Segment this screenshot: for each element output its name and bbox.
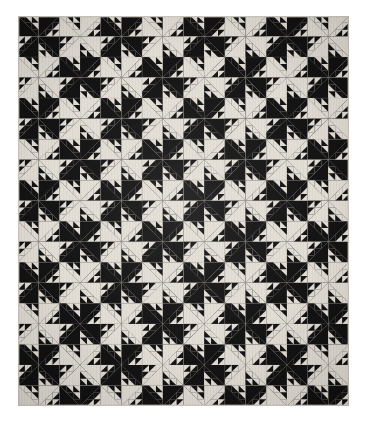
quilt-unit xyxy=(308,119,329,140)
quilt-unit xyxy=(39,262,60,283)
quilt-unit xyxy=(225,119,246,140)
quilt-unit xyxy=(59,242,80,263)
quilt-unit xyxy=(328,365,349,386)
quilt-unit xyxy=(121,57,142,78)
quilt-unit xyxy=(142,242,163,263)
quilt-unit xyxy=(328,16,349,37)
quilt-unit xyxy=(121,221,142,242)
quilt-unit xyxy=(287,119,308,140)
quilt-unit xyxy=(184,139,205,160)
quilt-unit xyxy=(39,139,60,160)
quilt-unit xyxy=(121,242,142,263)
quilt-unit xyxy=(163,242,184,263)
quilt-unit xyxy=(101,365,122,386)
quilt-unit xyxy=(266,262,287,283)
quilt-unit xyxy=(101,57,122,78)
quilt-unit xyxy=(204,16,225,37)
quilt-unit xyxy=(59,78,80,99)
quilt-unit xyxy=(80,16,101,37)
quilt-unit xyxy=(328,57,349,78)
quilt-unit xyxy=(184,98,205,119)
quilt-unit xyxy=(39,16,60,37)
quilt-unit xyxy=(184,78,205,99)
quilt-unit xyxy=(39,385,60,406)
quilt-unit xyxy=(328,37,349,58)
quilt-unit xyxy=(163,344,184,365)
quilt-unit xyxy=(39,78,60,99)
quilt-unit xyxy=(225,139,246,160)
quilt-unit xyxy=(246,221,267,242)
quilt-unit xyxy=(225,365,246,386)
quilt-unit xyxy=(204,57,225,78)
quilt-unit xyxy=(163,365,184,386)
quilt-unit xyxy=(204,283,225,304)
quilt-unit xyxy=(225,37,246,58)
quilt-unit xyxy=(163,303,184,324)
quilt-unit xyxy=(101,242,122,263)
quilt-unit xyxy=(18,324,39,345)
quilt-unit xyxy=(142,98,163,119)
quilt-unit xyxy=(308,37,329,58)
quilt-unit xyxy=(39,201,60,222)
quilt-unit xyxy=(101,119,122,140)
quilt-unit xyxy=(80,201,101,222)
quilt-unit xyxy=(225,262,246,283)
quilt-unit xyxy=(246,344,267,365)
quilt-unit xyxy=(204,139,225,160)
quilt-unit xyxy=(163,221,184,242)
quilt-unit xyxy=(246,98,267,119)
quilt-unit xyxy=(287,180,308,201)
quilt-unit xyxy=(18,242,39,263)
quilt-unit xyxy=(308,262,329,283)
quilt-unit xyxy=(225,98,246,119)
quilt-unit xyxy=(163,180,184,201)
quilt-unit xyxy=(308,344,329,365)
quilt-unit xyxy=(246,283,267,304)
quilt-unit xyxy=(225,221,246,242)
quilt-unit xyxy=(266,365,287,386)
quilt-unit xyxy=(184,160,205,181)
quilt-unit xyxy=(80,385,101,406)
quilt-unit xyxy=(39,37,60,58)
quilt-unit xyxy=(121,283,142,304)
quilt-unit xyxy=(184,283,205,304)
quilt-unit xyxy=(80,37,101,58)
quilt-unit xyxy=(39,324,60,345)
quilt-unit xyxy=(266,303,287,324)
quilt-unit xyxy=(59,119,80,140)
quilt-unit xyxy=(287,37,308,58)
quilt-unit xyxy=(246,324,267,345)
quilt-unit xyxy=(101,139,122,160)
quilt-unit xyxy=(287,262,308,283)
quilt-unit xyxy=(287,98,308,119)
quilt-unit xyxy=(287,16,308,37)
quilt-unit xyxy=(59,385,80,406)
quilt-unit xyxy=(328,344,349,365)
quilt-unit xyxy=(18,57,39,78)
quilt-unit xyxy=(184,324,205,345)
quilt-unit xyxy=(142,221,163,242)
quilt-unit xyxy=(80,78,101,99)
quilt-unit xyxy=(142,303,163,324)
quilt-unit xyxy=(142,385,163,406)
quilt-unit xyxy=(18,385,39,406)
quilt-unit xyxy=(184,16,205,37)
quilt-unit xyxy=(80,283,101,304)
quilt-unit xyxy=(246,57,267,78)
quilt-unit xyxy=(121,303,142,324)
quilt-unit xyxy=(328,283,349,304)
quilt-unit xyxy=(80,262,101,283)
quilt-unit xyxy=(18,119,39,140)
quilt-unit xyxy=(121,180,142,201)
quilt-unit xyxy=(184,201,205,222)
quilt-unit xyxy=(80,221,101,242)
quilt-unit xyxy=(308,180,329,201)
quilt-unit xyxy=(266,283,287,304)
quilt-unit xyxy=(142,180,163,201)
quilt-unit xyxy=(266,139,287,160)
quilt-unit xyxy=(163,324,184,345)
quilt-unit xyxy=(204,98,225,119)
quilt-unit xyxy=(121,385,142,406)
quilt-unit xyxy=(308,201,329,222)
quilt-unit xyxy=(80,324,101,345)
